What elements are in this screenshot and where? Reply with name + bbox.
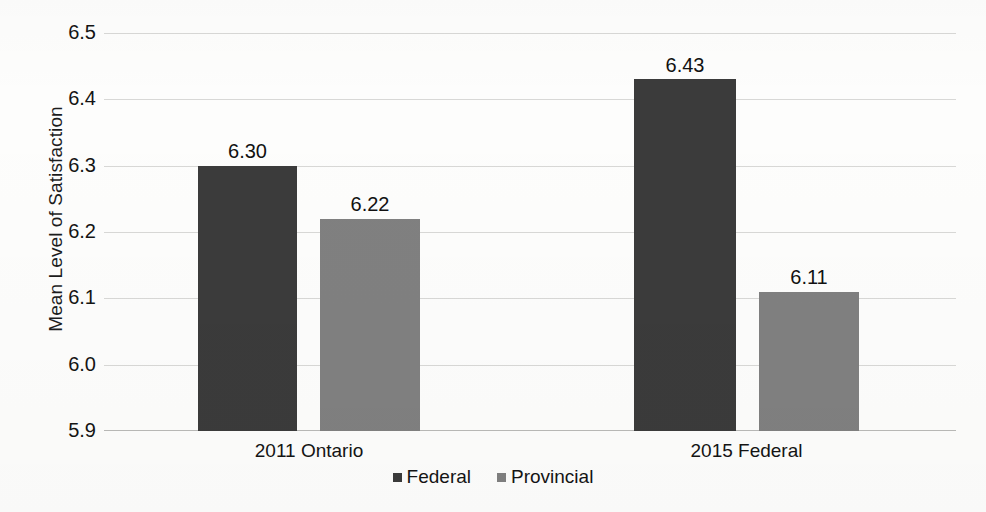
y-tick-label: 5.9 bbox=[26, 419, 96, 442]
plot-area: 6.30 6.22 6.43 6.11 bbox=[104, 33, 956, 431]
bar-value-label-2015-federal-provincial: 6.11 bbox=[759, 266, 859, 289]
gridline-6-4 bbox=[104, 99, 956, 100]
bar-value-label-2011-ontario-federal: 6.30 bbox=[198, 140, 297, 163]
chart-figure: Mean Level of Satisfaction 6.5 6.4 6.3 6… bbox=[0, 0, 986, 512]
bar-2015-federal-provincial[interactable] bbox=[759, 292, 859, 431]
bar-2011-ontario-federal[interactable] bbox=[198, 166, 297, 431]
legend-item-federal[interactable]: Federal bbox=[393, 466, 471, 488]
legend-swatch-icon-provincial bbox=[497, 473, 506, 482]
y-tick-label: 6.5 bbox=[26, 21, 96, 44]
legend-label-provincial: Provincial bbox=[511, 466, 593, 488]
bar-value-label-2015-federal-federal: 6.43 bbox=[634, 54, 736, 77]
legend-label-federal: Federal bbox=[407, 466, 471, 488]
bar-value-label-2011-ontario-provincial: 6.22 bbox=[320, 193, 420, 216]
bar-2015-federal-federal[interactable] bbox=[634, 79, 736, 431]
y-tick-label: 6.0 bbox=[26, 353, 96, 376]
y-tick-label: 6.4 bbox=[26, 87, 96, 110]
gridline-6-5 bbox=[104, 33, 956, 34]
legend: Federal Provincial bbox=[0, 466, 986, 488]
y-tick-label: 6.3 bbox=[26, 154, 96, 177]
legend-swatch-icon-federal bbox=[393, 473, 402, 482]
y-tick-label: 6.2 bbox=[26, 220, 96, 243]
y-axis-tick-labels: 6.5 6.4 6.3 6.2 6.1 6.0 5.9 bbox=[22, 33, 96, 431]
x-axis-category-label-2011-ontario: 2011 Ontario bbox=[198, 440, 420, 462]
bar-2011-ontario-provincial[interactable] bbox=[320, 219, 420, 431]
x-axis-category-label-2015-federal: 2015 Federal bbox=[634, 440, 859, 462]
legend-item-provincial[interactable]: Provincial bbox=[497, 466, 593, 488]
y-tick-label: 6.1 bbox=[26, 286, 96, 309]
